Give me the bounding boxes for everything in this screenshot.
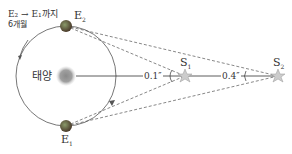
sun-label: 태양 (32, 71, 52, 82)
star-s2-label: S2 (273, 57, 284, 70)
period-duration: 6개월 (8, 21, 27, 29)
star-s2 (271, 69, 285, 82)
parallax-diagram: E₂ → E₁까지 6개월 태양 E2 E1 S1 S2 0.1″ 0.4″ (0, 0, 292, 154)
star-s1-label: S1 (180, 57, 191, 70)
sun (56, 66, 76, 86)
earth-e2-label: E2 (74, 10, 86, 23)
parallax-angle-s2: 0.4″ (221, 72, 241, 81)
parallax-angle-s1: 0.1″ (143, 72, 163, 81)
earth-e1 (60, 120, 72, 132)
star-s1 (178, 69, 192, 82)
earth-e2 (60, 20, 72, 32)
earth-e1-label: E1 (61, 134, 73, 147)
period-note: E₂ → E₁까지 (8, 10, 58, 19)
